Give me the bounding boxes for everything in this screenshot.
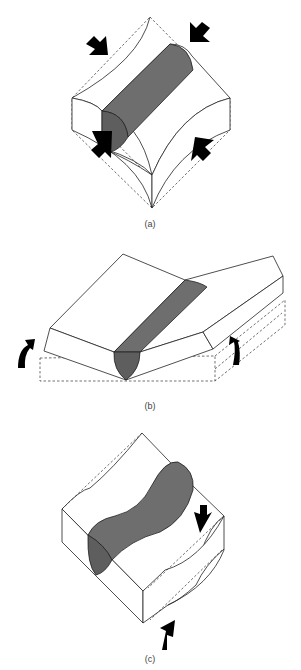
rotation-arrow-left xyxy=(18,339,35,368)
panel-c xyxy=(62,433,224,650)
caption-c: (c) xyxy=(130,654,170,664)
compression-arrow-bottom-left xyxy=(91,131,112,158)
panel-b xyxy=(18,254,285,381)
caption-a: (a) xyxy=(130,219,170,229)
caption-b: (b) xyxy=(130,401,170,411)
shear-arrow-up xyxy=(160,620,175,650)
rotation-arrow-right xyxy=(229,336,240,365)
compression-arrow-top-right xyxy=(190,22,210,42)
compression-arrow-top-left xyxy=(86,36,108,55)
figure-canvas xyxy=(0,0,301,670)
panel-a xyxy=(72,17,230,208)
